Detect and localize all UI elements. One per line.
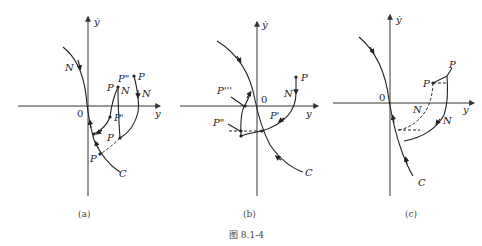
panel-c: ẏ y 0 P P N N C (c) [333,14,474,219]
figure-caption: 图 8.1-4 [229,230,264,240]
label-n-c: N [442,115,453,126]
label-n-b: N [283,88,294,99]
label-c-b: C [305,167,313,178]
label-p2-b: P" [212,117,224,128]
x-axis-label-b: y [305,108,312,119]
label-p-a: P [137,71,145,82]
y-axis-label-c: ẏ [395,14,402,25]
panel-a: ẏ y 0 N P" P P N N P' P P C (a) [18,16,161,219]
label-p1-a: P' [113,112,123,123]
label-c-c: C [418,177,426,188]
label-n-a: N [120,85,131,96]
curve-c-c [359,37,413,176]
trajectory-b2 [241,93,296,136]
label-p-a: P [106,132,114,143]
label-p3-b: P''' [216,85,232,96]
origin-label-a: 0 [77,108,83,119]
sublabel-c: (c) [405,209,417,219]
trajectory-a1 [94,87,118,134]
origin-label-b: 0 [261,94,267,105]
trajectory-b3 [241,94,250,136]
leader-line [231,97,244,106]
label-p-a: P [106,82,114,93]
arrow-icon [90,122,91,128]
figure-canvas: ẏ y 0 N P" P P N N P' P P C (a) [0,0,482,246]
label-p-c: P [422,78,430,89]
origin-label-c: 0 [379,92,385,103]
x-axis-label-c: y [462,104,469,115]
label-p2-a: P" [117,73,129,84]
y-axis-label-b: ẏ [261,19,268,30]
label-p-c: P [448,59,456,70]
leader-line [228,124,240,131]
label-n-a: N [64,62,75,73]
sublabel-b: (b) [243,209,256,219]
label-n-a: N [141,88,152,99]
label-p-b: P [300,72,308,83]
panel-b: ẏ y 0 P''' P" P N P' C (b) 图 8.1-4 [180,19,318,240]
label-p-a: P [89,153,97,164]
label-n-c: N [412,104,423,115]
y-axis-label-a: ẏ [93,16,100,27]
x-axis-label-a: y [154,108,161,119]
label-p1-b: P' [269,110,279,121]
sublabel-a: (a) [78,209,90,219]
label-c-a: C [119,168,127,179]
